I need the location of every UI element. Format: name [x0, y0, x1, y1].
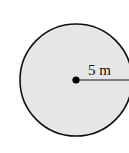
circle-diagram: 5 m [0, 0, 129, 153]
center-point [72, 76, 79, 83]
radius-label: 5 m [88, 62, 111, 78]
